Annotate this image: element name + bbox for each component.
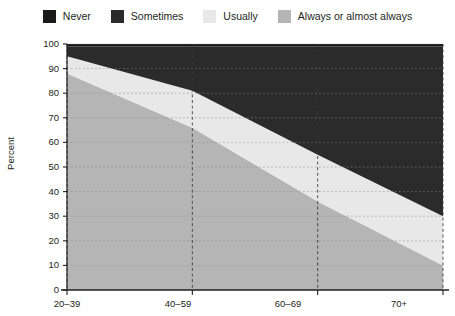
chart-canvas: [0, 0, 455, 316]
y-tick-label: 10: [33, 260, 59, 270]
y-tick-label: 60: [33, 137, 59, 147]
x-tick-label: 70+: [369, 299, 429, 309]
plot-area-wrapper: Percent 100 90 80 70 60 50 40 30 20 10 0…: [0, 0, 455, 316]
x-tick-label: 60–69: [258, 299, 318, 309]
y-tick-label: 0: [33, 285, 59, 295]
y-tick-label: 100: [33, 39, 59, 49]
stacked-area-chart: Never Sometimes Usually Always or almost…: [0, 0, 455, 316]
y-tick-label: 50: [33, 162, 59, 172]
y-tick-label: 30: [33, 211, 59, 221]
x-tick-label: 20–39: [37, 299, 97, 309]
y-tick-label: 40: [33, 187, 59, 197]
y-tick-label: 20: [33, 236, 59, 246]
y-tick-label: 70: [33, 113, 59, 123]
y-tick-label: 80: [33, 88, 59, 98]
y-tick-label: 90: [33, 64, 59, 74]
x-tick-label: 40–59: [148, 299, 208, 309]
